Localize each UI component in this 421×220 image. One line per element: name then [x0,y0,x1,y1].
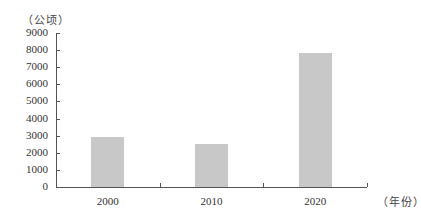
x-tick-label: 2000 [88,195,128,207]
x-tick-label: 2010 [192,195,232,207]
x-tick-label: 2020 [295,195,335,207]
bar-2020 [299,53,332,187]
y-tick-mark [56,170,60,171]
y-tick-mark [56,67,60,68]
y-tick-label: 1000 [16,163,48,175]
y-tick-label: 9000 [16,26,48,38]
y-tick-mark [56,50,60,51]
y-tick-label: 3000 [16,129,48,141]
y-tick-mark [56,33,60,34]
y-tick-mark [56,84,60,85]
y-tick-mark [56,119,60,120]
y-tick-label: 8000 [16,43,48,55]
y-tick-mark [56,187,60,188]
y-tick-label: 2000 [16,146,48,158]
y-tick-label: 5000 [16,94,48,106]
y-tick-label: 0 [16,180,48,192]
y-axis-line [56,33,57,188]
y-tick-mark [56,101,60,102]
bar-chart: （公顷） （年份） 010002000300040005000600070008… [0,0,421,220]
x-tick-mark [160,183,161,187]
y-tick-mark [56,153,60,154]
x-axis-line [56,187,367,188]
y-axis-unit-label: （公顷） [22,11,70,27]
x-tick-mark [263,183,264,187]
y-tick-label: 6000 [16,77,48,89]
y-tick-mark [56,136,60,137]
y-tick-label: 4000 [16,112,48,124]
bar-2000 [91,137,124,187]
bar-2010 [195,144,228,187]
x-tick-mark [367,183,368,187]
x-axis-unit-label: （年份） [377,193,421,209]
y-tick-label: 7000 [16,60,48,72]
